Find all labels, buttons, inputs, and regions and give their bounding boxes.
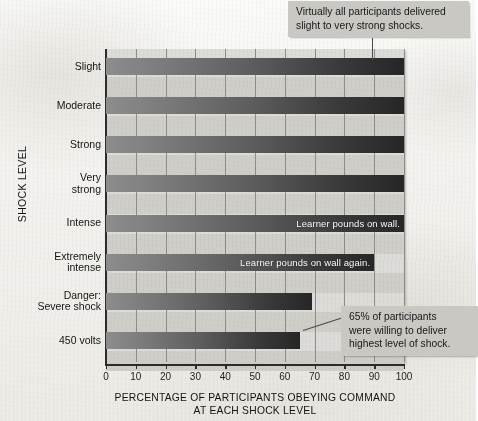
x-axis-tick-label: 80 — [339, 371, 350, 382]
y-axis-category-label: Danger: Severe shock — [5, 290, 101, 313]
x-axis-tick — [344, 364, 345, 369]
gridline-vertical — [136, 49, 137, 362]
bar-value-label: Learner pounds on wall. — [296, 218, 404, 229]
gridline-vertical — [315, 49, 316, 362]
bar — [106, 136, 404, 153]
bottom-callout-line-3: highest level of shock. — [349, 337, 471, 351]
x-axis-tick-label: 60 — [279, 371, 290, 382]
bar — [106, 293, 312, 310]
x-axis-tick-label: 0 — [103, 371, 109, 382]
gridline-vertical — [195, 49, 196, 362]
x-axis-tick — [315, 364, 316, 369]
x-axis-tick-label: 50 — [249, 371, 260, 382]
y-axis-category-label: Extremely intense — [5, 251, 101, 274]
x-axis-tick — [195, 364, 196, 369]
x-axis-title: PERCENTAGE OF PARTICIPANTS OBEYING COMMA… — [105, 391, 405, 417]
top-callout-line-2: slight to very strong shocks. — [296, 19, 462, 33]
bar: Learner pounds on wall. — [106, 215, 404, 232]
x-axis-tick-label: 30 — [190, 371, 201, 382]
x-axis-tick — [166, 364, 167, 369]
y-axis-category-label: Moderate — [5, 100, 101, 112]
x-axis-tick-label: 70 — [309, 371, 320, 382]
bar — [106, 97, 404, 114]
x-axis-tick — [106, 364, 107, 369]
bar — [106, 58, 404, 75]
x-axis-tick — [285, 364, 286, 369]
top-callout-line-1: Virtually all participants delivered — [296, 5, 462, 19]
y-axis-category-label: 450 volts — [5, 335, 101, 347]
x-axis-title-line-2: AT EACH SHOCK LEVEL — [105, 404, 405, 417]
x-axis-tick — [404, 364, 405, 369]
bottom-callout-line-2: were willing to deliver — [349, 324, 471, 338]
gridline-vertical — [225, 49, 226, 362]
bottom-callout-box: 65% of participants were willing to deli… — [341, 306, 478, 356]
bar — [106, 175, 404, 192]
y-axis-category-label: Slight — [5, 61, 101, 73]
bottom-callout-line-1: 65% of participants — [349, 310, 471, 324]
x-axis-tick — [374, 364, 375, 369]
gridline-vertical — [285, 49, 286, 362]
x-axis-tick-label: 10 — [130, 371, 141, 382]
bar — [106, 332, 300, 349]
x-axis-tick-label: 20 — [160, 371, 171, 382]
x-axis-tick-label: 90 — [369, 371, 380, 382]
x-axis-tick-label: 100 — [396, 371, 413, 382]
x-axis-tick — [255, 364, 256, 369]
top-callout-leader-line — [372, 38, 373, 60]
x-axis-tick — [136, 364, 137, 369]
gridline-vertical — [166, 49, 167, 362]
bar: Learner pounds on wall again. — [106, 254, 374, 271]
gridline-vertical — [255, 49, 256, 362]
x-axis-tick-label: 40 — [220, 371, 231, 382]
top-callout-box: Virtually all participants delivered sli… — [288, 1, 469, 37]
bar-value-label: Learner pounds on wall again. — [240, 257, 374, 268]
x-axis-title-line-1: PERCENTAGE OF PARTICIPANTS OBEYING COMMA… — [105, 391, 405, 404]
x-axis-tick — [225, 364, 226, 369]
y-axis-title: SHOCK LEVEL — [16, 124, 28, 244]
